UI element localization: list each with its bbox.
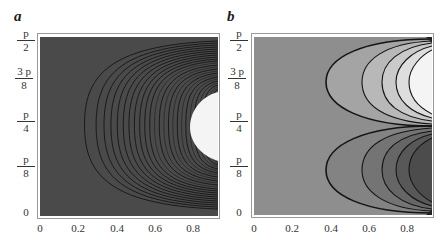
y-tick-num: p [15, 28, 37, 39]
x-tick-0.8-a: 0.8 [186, 222, 200, 234]
y-tick-pi-half-b: p 2 [228, 28, 250, 53]
y-tick-den: 8 [228, 168, 250, 179]
x-tick-0.6-a: 0.6 [148, 222, 162, 234]
y-tick-pi-half-a: p 2 [15, 28, 37, 53]
x-tick-0.8-b: 0.8 [400, 222, 414, 234]
y-tick-zero-b: 0 [231, 207, 247, 218]
contour-plot-b [254, 37, 432, 215]
y-tick-3pi-8-b: 3 p 8 [226, 66, 248, 91]
y-tick-pi-8-a: p 8 [15, 154, 37, 179]
x-tick-0-b: 0 [251, 222, 257, 234]
y-tick-den: 4 [15, 123, 37, 134]
panel-label-a: a [14, 8, 22, 25]
y-tick-den: 4 [228, 123, 250, 134]
y-tick-den: 2 [15, 42, 37, 53]
y-tick-pi-4-a: p 4 [15, 109, 37, 134]
y-tick-pi-4-b: p 4 [228, 109, 250, 134]
y-tick-den: 2 [228, 42, 250, 53]
y-tick-num: 3 p [226, 66, 248, 77]
x-tick-0.4-a: 0.4 [110, 222, 124, 234]
y-tick-num: p [228, 109, 250, 120]
y-tick-3pi-8-a: 3 p 8 [13, 66, 35, 91]
y-tick-den: 8 [13, 80, 35, 91]
y-tick-num: p [15, 154, 37, 165]
x-tick-0.2-b: 0.2 [285, 222, 299, 234]
y-tick-den: 8 [226, 80, 248, 91]
x-tick-0.4-b: 0.4 [324, 222, 338, 234]
y-tick-den: 8 [15, 168, 37, 179]
contour-plot-a [40, 37, 218, 216]
y-tick-zero-a: 0 [18, 207, 34, 218]
y-tick-num: p [228, 154, 250, 165]
y-tick-num: 3 p [13, 66, 35, 77]
y-tick-num: p [15, 109, 37, 120]
panel-label-b: b [227, 8, 235, 25]
x-tick-0-a: 0 [37, 222, 43, 234]
x-tick-0.6-b: 0.6 [362, 222, 376, 234]
x-tick-0.2-a: 0.2 [71, 222, 85, 234]
y-tick-num: p [228, 28, 250, 39]
y-tick-pi-8-b: p 8 [228, 154, 250, 179]
